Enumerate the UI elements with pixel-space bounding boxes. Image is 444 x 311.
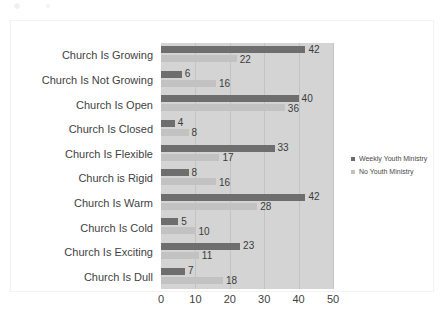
bar: [161, 243, 240, 250]
bar-value-label: 7: [188, 266, 194, 276]
value-axis: 01020304050: [161, 293, 333, 309]
bar: [161, 154, 219, 161]
bar-value-label: 16: [219, 79, 230, 89]
category-label: Church Is Exciting: [64, 246, 153, 258]
gridline-50: [333, 43, 334, 289]
bar-group: 2311: [161, 240, 333, 265]
bar-value-label: 28: [260, 202, 271, 212]
category-label: Church Is Dull: [84, 271, 153, 283]
legend-swatch-icon: [351, 157, 355, 161]
scan-artifact: [8, 1, 54, 11]
category-label: Church Is Open: [76, 99, 153, 111]
bar: [161, 252, 199, 259]
chart-legend: Weekly Youth MinistryNo Youth Ministry: [351, 155, 444, 181]
bar-value-label: 5: [181, 217, 187, 227]
legend-label: Weekly Youth Ministry: [359, 155, 427, 163]
bar-rows: 4222616403648331781642285102311718: [161, 43, 333, 289]
bar-value-label: 4: [178, 118, 184, 128]
x-tick-label-20: 20: [224, 293, 236, 305]
bar-value-label: 8: [192, 168, 198, 178]
plot-area: 4222616403648331781642285102311718: [161, 43, 333, 289]
bar-value-label: 10: [198, 227, 209, 237]
bar: [161, 203, 257, 210]
x-tick-label-40: 40: [292, 293, 304, 305]
bar-group: 3317: [161, 141, 333, 166]
bar-value-label: 33: [278, 143, 289, 153]
category-label: Church Is Flexible: [65, 148, 153, 160]
category-label: Church is Rigid: [78, 172, 153, 184]
bar: [161, 55, 237, 62]
x-tick-label-10: 10: [189, 293, 201, 305]
bar-group: 510: [161, 215, 333, 240]
bar: [161, 194, 305, 201]
category-label: Church Is Not Growing: [42, 74, 153, 86]
category-label: Church Is Closed: [69, 123, 153, 135]
bar-value-label: 40: [302, 94, 313, 104]
chart-figure: 4222616403648331781642285102311718 Churc…: [10, 20, 434, 292]
bar: [161, 95, 299, 102]
bar-group: 4222: [161, 43, 333, 68]
bar-value-label: 22: [240, 55, 251, 65]
bar: [161, 218, 178, 225]
bar-value-label: 42: [308, 192, 319, 202]
bar-group: 4036: [161, 92, 333, 117]
bar-group: 616: [161, 68, 333, 93]
bar: [161, 120, 175, 127]
bar: [161, 268, 185, 275]
bar-value-label: 11: [202, 251, 212, 261]
x-tick-label-50: 50: [327, 293, 339, 305]
bar-value-label: 42: [308, 45, 319, 55]
bar-group: 48: [161, 117, 333, 142]
bar-value-label: 8: [192, 128, 198, 138]
bar-group: 718: [161, 264, 333, 289]
bar: [161, 46, 305, 53]
bar-value-label: 18: [226, 276, 237, 286]
bar: [161, 178, 216, 185]
bar-value-label: 6: [185, 69, 191, 79]
bar-value-label: 17: [222, 153, 233, 163]
legend-label: No Youth Ministry: [359, 168, 413, 176]
category-axis: Church Is GrowingChurch Is Not GrowingCh…: [23, 43, 157, 289]
bar-value-label: 16: [219, 178, 230, 188]
x-tick-label-0: 0: [158, 293, 164, 305]
bar: [161, 277, 223, 284]
category-label: Church Is Warm: [74, 197, 153, 209]
bar-group: 4228: [161, 191, 333, 216]
bar: [161, 71, 182, 78]
bar-value-label: 36: [288, 104, 299, 114]
bar: [161, 80, 216, 87]
category-label: Church Is Growing: [62, 49, 153, 61]
bar-group: 816: [161, 166, 333, 191]
bar: [161, 145, 275, 152]
legend-item[interactable]: Weekly Youth Ministry: [351, 155, 444, 163]
category-label: Church Is Cold: [80, 222, 153, 234]
bar: [161, 104, 285, 111]
x-tick-label-30: 30: [258, 293, 270, 305]
bar: [161, 129, 189, 136]
bar: [161, 227, 195, 234]
bar: [161, 169, 189, 176]
legend-swatch-icon: [351, 170, 355, 174]
bar-value-label: 23: [243, 241, 254, 251]
legend-item[interactable]: No Youth Ministry: [351, 168, 444, 176]
